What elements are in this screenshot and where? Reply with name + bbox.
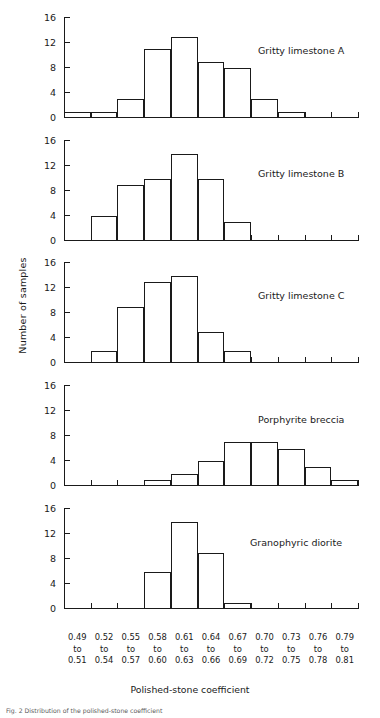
subplot-2: 0481216: [0, 131, 380, 251]
x-axis-category-line: to: [331, 644, 358, 656]
y-axis-tick-label: 12: [16, 283, 56, 293]
series-label-2: Gritty limestone B: [258, 168, 344, 179]
y-axis-tick-label: 0: [16, 236, 56, 246]
histogram-bar: [171, 276, 198, 364]
y-axis-tick-label: 8: [16, 431, 56, 441]
x-axis-category-label: 0.64to0.66: [198, 632, 225, 678]
subplot-5: 0481216: [0, 499, 380, 619]
y-axis-tick-label: 12: [16, 161, 56, 171]
x-axis-category-line: to: [117, 644, 144, 656]
histogram-bar: [91, 216, 118, 241]
y-axis-tick-label: 0: [16, 481, 56, 491]
x-axis-category-line: to: [64, 644, 91, 656]
x-axis-category-line: to: [278, 644, 305, 656]
histogram-bar: [224, 222, 251, 241]
x-axis-category-line: 0.58: [144, 632, 171, 644]
bar-group: [64, 509, 358, 609]
x-axis-category-labels: 0.49to0.510.52to0.540.55to0.570.58to0.60…: [64, 632, 358, 678]
x-axis-tick: [358, 357, 359, 363]
x-axis-category-line: to: [144, 644, 171, 656]
x-axis-category-line: 0.76: [305, 632, 332, 644]
histogram-bar: [198, 179, 225, 242]
histogram-bar: [64, 112, 91, 118]
y-axis-tick-label: 12: [16, 38, 56, 48]
y-axis-tick-label: 0: [16, 358, 56, 368]
x-axis-category-label: 0.61to0.63: [171, 632, 198, 678]
y-axis-tick-label: 16: [16, 381, 56, 391]
histogram-bar: [251, 99, 278, 118]
histogram-bar: [198, 332, 225, 363]
histogram-bar: [144, 282, 171, 363]
plot-area: 0481216: [64, 141, 358, 241]
histogram-bar: [198, 553, 225, 609]
x-axis-category-line: 0.78: [305, 655, 332, 667]
histogram-bar: [144, 572, 171, 610]
histogram-bar: [224, 351, 251, 364]
series-label-3: Gritty limestone C: [258, 290, 344, 301]
histogram-bar: [224, 603, 251, 609]
x-axis-category-line: 0.60: [144, 655, 171, 667]
x-axis-title: Polished-stone coefficient: [0, 684, 380, 695]
x-axis-category-line: 0.67: [224, 632, 251, 644]
y-axis-tick-label: 16: [16, 136, 56, 146]
y-axis-tick-label: 12: [16, 406, 56, 416]
x-axis-category-line: to: [251, 644, 278, 656]
histogram-bar: [278, 112, 305, 118]
y-axis-tick-label: 4: [16, 579, 56, 589]
y-axis-tick-label: 8: [16, 308, 56, 318]
histogram-bar: [171, 522, 198, 610]
bar-group: [64, 386, 358, 486]
x-axis-category-label: 0.79to0.81: [331, 632, 358, 678]
x-axis-category-line: 0.73: [278, 632, 305, 644]
histogram-bar: [171, 37, 198, 118]
subplot-4: 0481216: [0, 376, 380, 496]
x-axis-category-line: 0.55: [117, 632, 144, 644]
y-axis-tick-label: 8: [16, 554, 56, 564]
x-axis-category-label: 0.58to0.60: [144, 632, 171, 678]
histogram-bar: [278, 449, 305, 487]
histogram-bar: [144, 179, 171, 242]
plot-area: 0481216: [64, 509, 358, 609]
plot-area: 0481216: [64, 263, 358, 363]
y-axis-tick-label: 8: [16, 186, 56, 196]
y-axis-tick-label: 16: [16, 258, 56, 268]
histogram-bar: [91, 351, 118, 364]
x-axis-category-line: 0.52: [91, 632, 118, 644]
x-axis-category-line: 0.81: [331, 655, 358, 667]
histogram-bar: [117, 99, 144, 118]
histogram-bar: [91, 112, 118, 118]
bar-group: [64, 18, 358, 118]
x-axis-category-line: 0.54: [91, 655, 118, 667]
subplot-1: 0481216: [0, 8, 380, 128]
plot-area: 0481216: [64, 18, 358, 118]
x-axis-category-line: 0.66: [198, 655, 225, 667]
y-axis-tick-label: 16: [16, 13, 56, 23]
x-axis-category-line: 0.57: [117, 655, 144, 667]
histogram-bar: [251, 442, 278, 486]
x-axis-category-line: 0.75: [278, 655, 305, 667]
histogram-bar: [117, 307, 144, 363]
y-axis-tick-label: 4: [16, 88, 56, 98]
x-axis-category-label: 0.49to0.51: [64, 632, 91, 678]
x-axis-category-line: to: [305, 644, 332, 656]
histogram-bar: [198, 461, 225, 486]
x-axis-category-label: 0.76to0.78: [305, 632, 332, 678]
y-axis-tick-label: 4: [16, 456, 56, 466]
series-label-4: Porphyrite breccia: [258, 414, 344, 425]
x-axis-category-line: to: [91, 644, 118, 656]
y-axis-tick-label: 0: [16, 113, 56, 123]
x-axis-category-label: 0.70to0.72: [251, 632, 278, 678]
x-axis-category-line: 0.63: [171, 655, 198, 667]
x-axis-tick: [358, 480, 359, 486]
histogram-bar: [171, 154, 198, 242]
histogram-bar: [144, 49, 171, 118]
y-axis-tick-label: 0: [16, 604, 56, 614]
x-axis-category-label: 0.55to0.57: [117, 632, 144, 678]
y-axis-tick-label: 16: [16, 504, 56, 514]
x-axis-category-label: 0.52to0.54: [91, 632, 118, 678]
x-axis-tick: [358, 603, 359, 609]
y-axis-tick-label: 4: [16, 211, 56, 221]
x-axis-category-line: 0.72: [251, 655, 278, 667]
figure-panel: Number of samples 0481216048121604812160…: [0, 0, 380, 718]
x-axis-category-line: to: [224, 644, 251, 656]
